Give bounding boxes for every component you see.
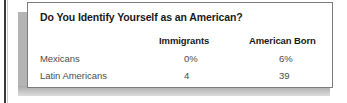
column-header-american-born: American Born — [249, 35, 316, 46]
table-cell-latin-americans-immigrants: 4 — [184, 70, 189, 81]
page-left-rule-secondary — [7, 0, 8, 103]
column-header-immigrants: Immigrants — [159, 35, 209, 46]
table-row-label-mexicans: Mexicans — [40, 53, 80, 64]
table-card: Do You Identify Yourself as an American?… — [27, 2, 333, 88]
table-cell-latin-americans-american-born: 39 — [279, 70, 290, 81]
table-title: Do You Identify Yourself as an American? — [40, 11, 243, 23]
table-cell-mexicans-immigrants: 0% — [184, 53, 198, 64]
table-cell-mexicans-american-born: 6% — [279, 53, 293, 64]
table-row-label-latin-americans: Latin Americans — [40, 70, 107, 81]
page-left-rule — [4, 0, 6, 103]
